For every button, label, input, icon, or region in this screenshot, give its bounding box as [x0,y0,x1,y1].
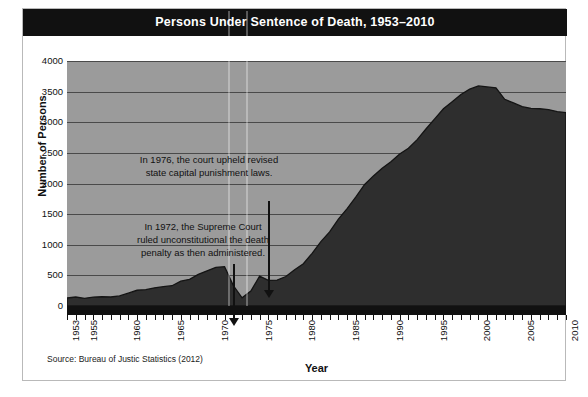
x-axis-tick-label: 1995 [439,320,449,341]
plot-wrapper: Number of Persons 4000350030002500200015… [23,36,567,382]
y-axis-tick-labels: 40003500300025002000150010005000 [23,61,63,306]
series-area-path [67,86,566,306]
x-axis-tick-label: 1960 [132,320,142,341]
plot-area [67,61,566,306]
annotation-1976: In 1976, the court upheld revised state … [109,154,309,180]
x-axis-tick-label: 1985 [351,320,361,341]
x-axis-tick-label: 2005 [526,320,536,341]
x-axis-bar [67,306,566,315]
x-axis-tick-label: 2000 [482,320,492,341]
x-axis-tick-label: 1965 [176,320,186,341]
x-axis-tick-label: 1955 [89,320,99,341]
chart-title-bar: Persons Under Sentence of Death, 1953–20… [23,9,567,36]
x-axis-tick-label: 1970 [220,320,230,341]
area-chart-series [67,61,566,306]
y-axis-tick-label: 3000 [29,118,63,128]
x-axis-tick-label: 2010 [570,320,580,341]
x-axis-tick-label: 1980 [307,320,317,341]
y-axis-tick-label: 2500 [29,148,63,158]
y-axis-tick-label: 1500 [29,209,63,219]
x-axis-tick-label: 1953 [71,320,81,341]
source-note: Source: Bureau of Justic Statistics (201… [47,354,203,364]
x-axis-tick-label: 1975 [264,320,274,341]
y-axis-tick-label: 0 [29,301,63,311]
y-axis-tick-label: 1000 [29,240,63,250]
annotation-1972: In 1972, the Supreme Court ruled unconst… [103,221,303,259]
y-axis-tick-label: 2000 [29,179,63,189]
y-axis-tick-label: 500 [29,271,63,281]
page-title: Persons Under Sentence of Death, 1953–20… [155,16,434,29]
x-axis-tick-mark [566,315,567,320]
x-axis-tick-label: 1990 [395,320,405,341]
figure-card: Persons Under Sentence of Death, 1953–20… [22,8,566,381]
y-axis-tick-label: 4000 [29,56,63,66]
y-axis-tick-label: 3500 [29,87,63,97]
